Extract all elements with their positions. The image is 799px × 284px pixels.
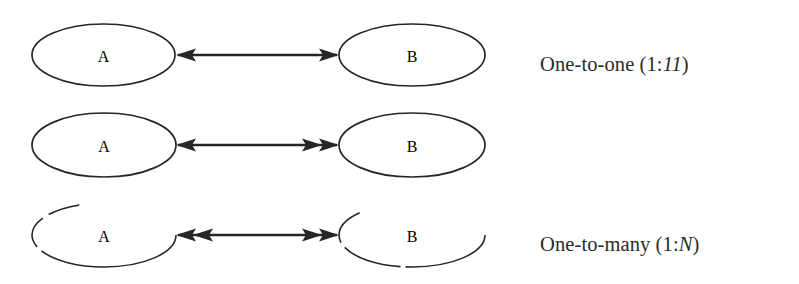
relationship-cardinality-diagram: A B One-to-one (1:11) A B One-to-many (1… <box>0 0 799 284</box>
relationship-figure-one-to-many: A B <box>0 100 520 190</box>
relationship-row-many-to-many: A B Many-to-many (M:N) <box>0 190 799 280</box>
entity-a-text: A <box>98 228 110 245</box>
cardinality-right-multiplicity: 1 <box>672 53 682 75</box>
cardinality-label-prefix: One-to-one (1: <box>540 53 663 75</box>
relationship-figure-many-to-many: A B <box>0 190 520 280</box>
entity-a-text: A <box>98 138 110 155</box>
entity-b-text: B <box>407 228 418 245</box>
cardinality-label-one-to-one: One-to-one (1:11) <box>540 53 790 76</box>
cardinality-left-multiplicity: 1 <box>663 53 672 75</box>
entity-b-text: B <box>407 138 418 155</box>
cardinality-label-suffix: ) <box>682 53 689 75</box>
relationship-row-one-to-one: A B One-to-one (1:11) <box>0 10 799 100</box>
entity-b-text: B <box>407 48 418 65</box>
entity-a-text: A <box>98 48 110 65</box>
relationship-figure-one-to-one: A B <box>0 10 520 100</box>
relationship-row-one-to-many: A B One-to-many (1:N) <box>0 100 799 190</box>
